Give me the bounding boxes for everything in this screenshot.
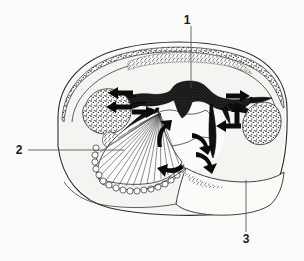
figure-container: 1 2 3: [0, 0, 304, 261]
label-2: 2: [16, 143, 23, 157]
label-3: 3: [243, 232, 250, 246]
label-1: 1: [184, 13, 191, 27]
anatomical-diagram: 1 2 3: [0, 0, 304, 261]
